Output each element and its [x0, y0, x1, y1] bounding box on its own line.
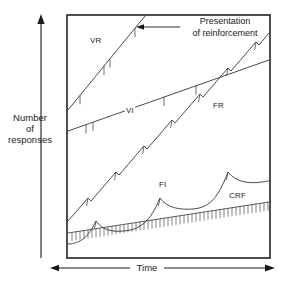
annotation-arrow [136, 24, 180, 30]
curve-label-fr: FR [212, 101, 225, 110]
vi-reinforcement-ticks [86, 86, 196, 134]
y-axis-label: Number of responses [1, 112, 59, 145]
curve-label-fi: FI [158, 180, 168, 189]
curve-label-crf: CRF [228, 191, 247, 200]
curve-label-vr: VR [89, 36, 103, 45]
curve-fi [68, 172, 269, 244]
curve-label-vi: VI [125, 106, 135, 115]
curve-vr [68, 16, 145, 110]
crf-reinforcement-ticks [72, 202, 268, 241]
curve-vi [68, 60, 269, 134]
cumulative-record-figure: Number of responses Time Presentation of… [0, 0, 282, 288]
reinforcement-annotation: Presentation of reinforcement [182, 16, 268, 39]
fr-reinforcement-ticks [87, 42, 256, 206]
plot-frame [67, 15, 270, 258]
curve-crf [68, 202, 269, 241]
x-axis-label: Time [130, 262, 164, 273]
